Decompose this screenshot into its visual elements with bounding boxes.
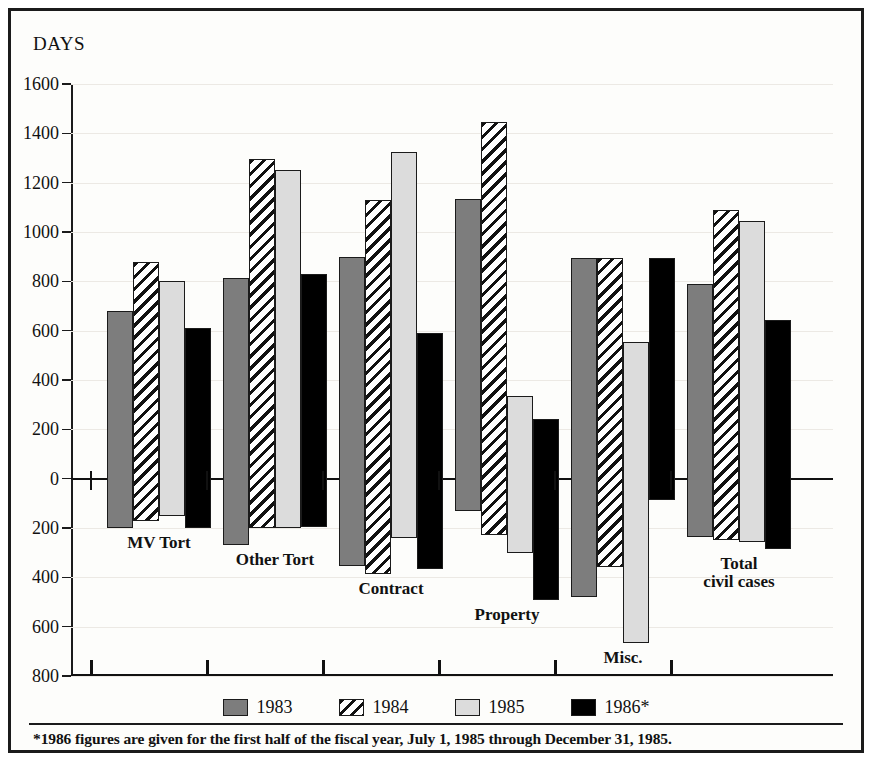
zero-axis-tick: [670, 471, 672, 490]
y-axis-tick: [62, 379, 71, 381]
bar-contract-1986: [417, 333, 443, 569]
group-label-misc-: Misc.: [545, 649, 701, 667]
y-axis-tick: [62, 577, 71, 579]
y-axis-tick-label: 1000: [23, 222, 59, 243]
bar-misc--1984: [597, 258, 623, 568]
bar-total-civil-cases-1986: [765, 320, 791, 549]
legend-item-1983[interactable]: 1983: [223, 697, 293, 718]
bar-total-civil-cases-1983: [687, 284, 713, 537]
group-label-other-tort: Other Tort: [197, 551, 353, 569]
y-axis-tick-label: 600: [32, 616, 59, 637]
bar-total-civil-cases-1985: [739, 221, 765, 542]
bar-other-tort-1983: [223, 278, 249, 546]
y-axis-tick: [62, 83, 71, 85]
gridline: [71, 84, 833, 85]
gridline: [71, 183, 833, 184]
y-axis-tick: [62, 527, 71, 529]
bar-total-civil-cases-1984: [713, 210, 739, 541]
bar-misc--1986: [649, 258, 675, 500]
y-axis-tick-label: 800: [32, 666, 59, 687]
group-label-total-civil-cases: Totalcivil cases: [661, 555, 817, 592]
x-axis-tick: [322, 660, 325, 676]
footnote-divider: [29, 723, 843, 725]
zero-axis-tick: [554, 471, 556, 490]
legend-swatch-icon: [339, 699, 364, 716]
bar-mv-tort-1986: [185, 328, 211, 528]
legend-swatch-icon: [571, 699, 596, 716]
group-label-mv-tort: MV Tort: [81, 534, 237, 552]
bar-contract-1985: [391, 152, 417, 538]
y-axis-tick-label: 400: [32, 370, 59, 391]
bar-other-tort-1984: [249, 159, 275, 528]
bar-property-1985: [507, 396, 533, 553]
chart-figure: DAYS 16001400120010008006004002000200400…: [8, 8, 864, 753]
bar-property-1984: [481, 122, 507, 535]
legend-label: 1986*: [605, 697, 650, 718]
legend-item-1984[interactable]: 1984: [339, 697, 409, 718]
bar-misc--1983: [571, 258, 597, 597]
bar-misc--1985: [623, 342, 649, 643]
y-axis-tick: [62, 626, 71, 628]
legend-label: 1983: [257, 697, 293, 718]
bar-mv-tort-1984: [133, 262, 159, 521]
zero-axis-tick: [206, 471, 208, 490]
group-label-property: Property: [429, 606, 585, 624]
y-axis-tick: [62, 429, 71, 431]
gridline: [71, 627, 833, 628]
legend-item-1986[interactable]: 1986*: [571, 697, 650, 718]
plot-area: 1600140012001000800600400200020040060080…: [71, 84, 833, 676]
y-axis-tick: [62, 675, 71, 677]
x-axis-tick: [206, 660, 209, 676]
y-axis-tick: [62, 330, 71, 332]
legend-item-1985[interactable]: 1985: [455, 697, 525, 718]
zero-axis-tick: [90, 471, 92, 490]
bar-contract-1984: [365, 200, 391, 574]
footnote-text: *1986 figures are given for the first ha…: [33, 730, 843, 748]
legend-label: 1984: [373, 697, 409, 718]
bar-property-1983: [455, 199, 481, 511]
y-axis-tick-label: 0: [50, 468, 59, 489]
x-axis-tick: [90, 660, 93, 676]
y-axis-tick-label: 600: [32, 320, 59, 341]
y-axis-title: DAYS: [33, 33, 85, 55]
legend-swatch-icon: [455, 699, 480, 716]
y-axis-tick: [62, 281, 71, 283]
gridline: [71, 676, 833, 677]
legend-label: 1985: [489, 697, 525, 718]
bar-mv-tort-1983: [107, 311, 133, 528]
y-axis-tick-label: 400: [32, 567, 59, 588]
y-axis-tick-label: 1600: [23, 74, 59, 95]
y-axis-tick-label: 800: [32, 271, 59, 292]
bar-mv-tort-1985: [159, 281, 185, 515]
x-axis-tick: [438, 660, 441, 676]
group-label-contract: Contract: [313, 580, 469, 598]
y-axis-tick: [62, 478, 71, 480]
legend: 1983198419851986*: [11, 697, 861, 718]
bar-other-tort-1985: [275, 170, 301, 528]
bar-contract-1983: [339, 257, 365, 567]
y-axis-tick-label: 200: [32, 419, 59, 440]
y-axis-tick-label: 1200: [23, 172, 59, 193]
zero-axis-tick: [322, 471, 324, 490]
y-axis-tick: [62, 133, 71, 135]
bar-property-1986: [533, 419, 559, 599]
zero-axis-tick: [438, 471, 440, 490]
gridline: [71, 133, 833, 134]
y-axis-tick-label: 1400: [23, 123, 59, 144]
x-axis-tick: [670, 660, 673, 676]
y-axis-tick-label: 200: [32, 518, 59, 539]
y-axis-tick: [62, 182, 71, 184]
y-axis-tick: [62, 231, 71, 233]
legend-swatch-icon: [223, 699, 248, 716]
